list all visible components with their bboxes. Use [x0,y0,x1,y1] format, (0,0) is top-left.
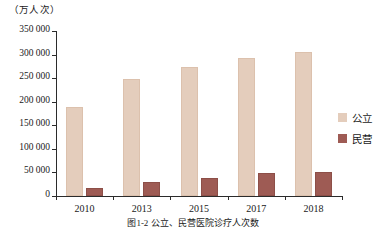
y-axis-tick-label: 200 000 [19,95,50,105]
legend-item-private: 民营 [338,128,372,149]
plot-area: 050 000100 000150 000200 000250 000300 0… [56,31,342,196]
bar-public-2015 [181,67,198,196]
x-axis-tick-label: 2010 [75,203,95,214]
x-axis-tick-mark [170,196,171,200]
y-axis-tick-label: 350 000 [19,24,50,34]
y-axis-tick-label: 300 000 [19,48,50,58]
legend-label-public: 公立 [352,110,372,125]
x-axis-tick-mark [113,196,114,200]
y-axis-tick-mark [52,31,56,32]
y-axis-tick-mark [52,55,56,56]
y-axis-tick-mark [52,102,56,103]
y-axis-tick-mark [52,149,56,150]
y-axis-tick-label: 250 000 [19,71,50,81]
bar-public-2013 [123,79,140,196]
x-axis-tick-mark [285,196,286,200]
chart-legend: 公立 民营 [338,107,372,149]
bar-private-2017 [258,173,275,196]
bar-public-2010 [66,107,83,196]
figure-caption: 图1-2 公立、民营医院诊疗人次数 [0,216,386,228]
legend-item-public: 公立 [338,107,372,128]
x-axis-line [56,196,342,197]
x-axis-tick-label: 2018 [303,203,323,214]
y-axis-unit-label: （万人次） [9,2,60,16]
x-axis-tick-mark [56,196,57,200]
y-axis-tick-mark [52,78,56,79]
x-axis-tick-label: 2013 [132,203,152,214]
legend-swatch-private-icon [338,134,347,143]
bar-public-2018 [295,52,312,196]
x-axis-tick-mark [228,196,229,200]
legend-label-private: 民营 [352,131,372,146]
bar-private-2010 [86,188,103,196]
x-axis-tick-label: 2015 [189,203,209,214]
legend-swatch-public-icon [338,113,347,122]
y-axis-tick-mark [52,125,56,126]
y-axis-tick-label: 0 [45,189,50,199]
bar-private-2013 [143,182,160,196]
y-axis-tick-label: 150 000 [19,118,50,128]
bar-private-2018 [315,172,332,197]
x-axis-tick-label: 2017 [246,203,266,214]
y-axis-line [56,31,57,196]
y-axis-tick-label: 100 000 [19,142,50,152]
x-axis-tick-mark [342,196,343,200]
bar-private-2015 [201,178,218,196]
y-axis-tick-label: 50 000 [24,165,50,175]
y-axis-tick-mark [52,172,56,173]
bar-chart: （万人次） 050 000100 000150 000200 000250 00… [0,0,386,228]
bar-public-2017 [238,58,255,196]
